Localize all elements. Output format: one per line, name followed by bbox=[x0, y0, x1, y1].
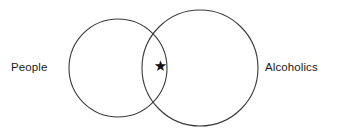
set-label-alcoholics: Alcoholics bbox=[265, 60, 318, 74]
venn-diagram-canvas: People Alcoholics ★ bbox=[0, 0, 344, 137]
set-label-people: People bbox=[11, 60, 47, 74]
asterisk-star-icon: ★ bbox=[153, 59, 168, 74]
